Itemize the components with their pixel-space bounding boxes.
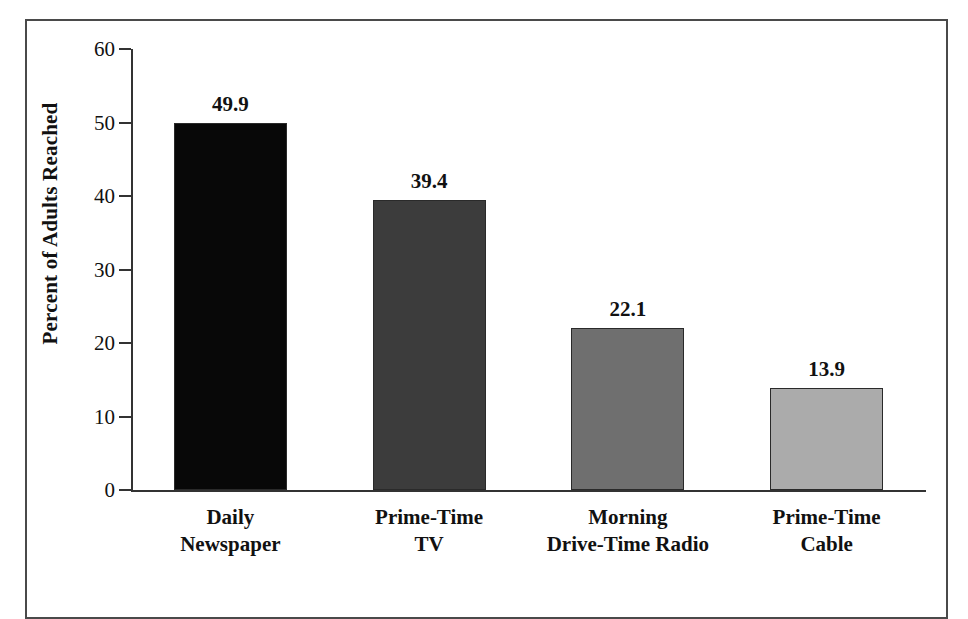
y-axis-tick-label: 0 [105, 478, 116, 503]
y-axis-tick [119, 269, 131, 271]
bar-value-label: 22.1 [610, 297, 647, 322]
y-axis-line [131, 49, 133, 490]
bar: 49.9 [174, 123, 287, 490]
bar: 22.1 [571, 328, 684, 490]
bar: 13.9 [770, 388, 883, 490]
x-axis-category-label: Daily Newspaper [131, 504, 330, 558]
y-axis-tick [119, 342, 131, 344]
bar: 39.4 [373, 200, 486, 490]
y-axis-tick-label: 60 [94, 37, 115, 62]
bar-value-label: 13.9 [808, 357, 845, 382]
y-axis-tick [119, 489, 131, 491]
x-axis-category-label: Prime-Time TV [330, 504, 529, 558]
y-axis-tick-label: 20 [94, 331, 115, 356]
x-axis-category-label: Prime-Time Cable [727, 504, 926, 558]
y-axis-tick [119, 195, 131, 197]
y-axis-tick-label: 50 [94, 110, 115, 135]
y-axis-tick-label: 40 [94, 184, 115, 209]
plot-area: 0102030405060 49.939.422.113.9 Daily New… [131, 49, 926, 490]
y-axis-tick-label: 10 [94, 404, 115, 429]
x-axis-category-label: Morning Drive-Time Radio [529, 504, 728, 558]
bar-value-label: 39.4 [411, 169, 448, 194]
y-axis-title: Percent of Adults Reached [38, 125, 63, 345]
y-axis-tick [119, 416, 131, 418]
y-axis-tick-label: 30 [94, 257, 115, 282]
bar-value-label: 49.9 [212, 92, 249, 117]
y-axis-tick [119, 48, 131, 50]
y-axis-tick [119, 122, 131, 124]
x-axis-line [131, 490, 926, 492]
